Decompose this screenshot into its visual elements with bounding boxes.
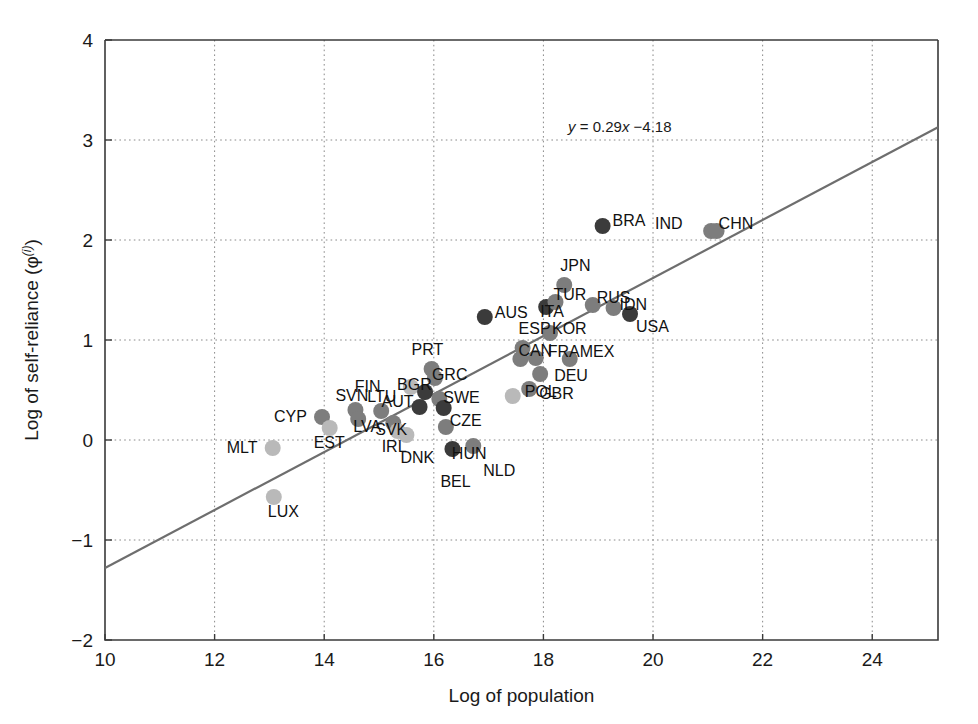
- data-point-aus: [477, 309, 493, 325]
- point-label-hun: HUN: [452, 445, 487, 462]
- point-label-est: EST: [314, 434, 345, 451]
- y-tick-label: 2: [82, 230, 93, 251]
- x-axis-title: Log of population: [449, 685, 595, 706]
- x-tick-label: 24: [862, 649, 884, 670]
- x-tick-label: 16: [423, 649, 444, 670]
- regression-equation: y = 0.29x −4.18: [567, 118, 671, 135]
- y-tick-label: −1: [71, 530, 93, 551]
- x-tick-label: 14: [314, 649, 336, 670]
- data-point-pol: [505, 388, 521, 404]
- y-tick-label: 4: [82, 30, 93, 51]
- point-label-esp: ESP: [519, 320, 551, 337]
- point-label-kor: KOR: [552, 320, 587, 337]
- grid-lines: [105, 40, 938, 640]
- equation-operator: = 0.29: [576, 118, 622, 135]
- data-point-aut: [412, 399, 428, 415]
- point-label-bgr: BGR: [397, 376, 432, 393]
- point-label-ind: IND: [655, 215, 683, 232]
- point-label-swe: SWE: [443, 389, 479, 406]
- tick-marks: [105, 40, 872, 640]
- point-label-aut: AUT: [382, 393, 414, 410]
- equation-constant: −4.18: [629, 118, 671, 135]
- point-label-cze: CZE: [450, 412, 482, 429]
- point-label-jpn: JPN: [560, 257, 590, 274]
- point-label-prt: PRT: [412, 341, 444, 358]
- y-axis-title: Log of self-reliance (φ(i)): [20, 239, 42, 440]
- y-tick-label: 1: [82, 330, 93, 351]
- y-tick-label: 3: [82, 130, 93, 151]
- y-tick-label: 0: [82, 430, 93, 451]
- point-label-svk: SVK: [375, 421, 407, 438]
- x-tick-label: 22: [752, 649, 773, 670]
- point-label-nld: NLD: [483, 462, 515, 479]
- point-labels: MLTLUXCYPESTSVNLVALTUSVKIRLDNKFINAUTBGRP…: [227, 212, 754, 520]
- x-tick-label: 20: [642, 649, 663, 670]
- point-label-gbr: GBR: [539, 385, 574, 402]
- y-axis-title-symbol: φ: [21, 256, 42, 268]
- point-label-fin: FIN: [355, 378, 381, 395]
- annotations: y = 0.29x −4.18: [567, 118, 671, 135]
- point-label-chn: CHN: [719, 215, 754, 232]
- point-label-deu: DEU: [554, 367, 588, 384]
- point-label-lux: LUX: [268, 503, 299, 520]
- point-label-mlt: MLT: [227, 439, 258, 456]
- point-label-mex: MEX: [580, 343, 615, 360]
- data-point-bra: [595, 218, 611, 234]
- point-label-bra: BRA: [613, 212, 646, 229]
- point-label-ita: ITA: [540, 303, 564, 320]
- point-label-usa: USA: [636, 318, 669, 335]
- point-label-fra: FRA: [548, 343, 580, 360]
- plot-canvas: MLTLUXCYPESTSVNLVALTUSVKIRLDNKFINAUTBGRP…: [0, 0, 978, 724]
- point-label-tur: TUR: [553, 286, 586, 303]
- x-tick-label: 12: [204, 649, 225, 670]
- point-label-bel: BEL: [440, 473, 470, 490]
- data-point-mlt: [265, 440, 281, 456]
- y-axis-title-superscript: (i): [20, 246, 34, 257]
- y-axis-title-base: Log of self-reliance (: [21, 268, 42, 441]
- scatter-plot-figure: MLTLUXCYPESTSVNLVALTUSVKIRLDNKFINAUTBGRP…: [0, 0, 978, 724]
- tick-labels: 1012141618202224−2−101234: [71, 30, 883, 670]
- point-label-grc: GRC: [432, 366, 468, 383]
- y-tick-label: −2: [71, 630, 93, 651]
- data-point-deu: [532, 366, 548, 382]
- point-label-idn: IDN: [620, 296, 648, 313]
- point-label-cyp: CYP: [274, 408, 307, 425]
- x-tick-label: 10: [94, 649, 115, 670]
- point-label-aus: AUS: [495, 304, 528, 321]
- x-tick-label: 18: [533, 649, 554, 670]
- y-axis-title-close: ): [21, 239, 42, 245]
- point-label-dnk: DNK: [400, 449, 434, 466]
